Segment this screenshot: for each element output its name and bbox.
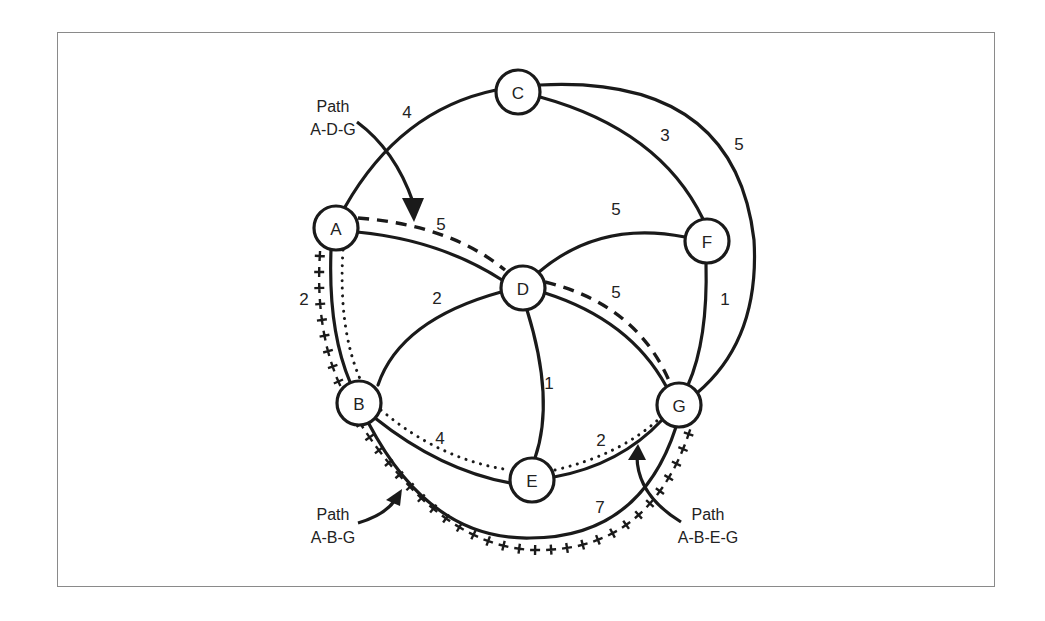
weight-F-G: 1 bbox=[720, 290, 729, 309]
annotation-a-d-g-title: Path bbox=[317, 98, 350, 115]
weight-A-B: 2 bbox=[299, 290, 308, 309]
annotation-a-b-g-path: A-B-G bbox=[311, 529, 355, 546]
node-G: G bbox=[657, 383, 701, 427]
weight-C-F: 3 bbox=[660, 126, 669, 145]
node-label-G: G bbox=[672, 397, 685, 416]
node-label-B: B bbox=[353, 395, 364, 414]
weight-A-D: 5 bbox=[436, 215, 445, 234]
annotation-a-b-e-g-path: A-B-E-G bbox=[678, 529, 738, 546]
annotation-a-b-g-title: Path bbox=[317, 506, 350, 523]
edge-E-G bbox=[554, 420, 662, 477]
arrow-a-b-g bbox=[358, 500, 395, 523]
weight-B-E: 4 bbox=[435, 429, 444, 448]
edge-A-D bbox=[357, 232, 502, 280]
weight-B-G: 7 bbox=[595, 498, 604, 517]
annotation-a-b-e-g-title: Path bbox=[692, 506, 725, 523]
arrowhead-a-d-g bbox=[402, 198, 424, 222]
edge-A-C bbox=[345, 90, 496, 207]
edge-C-F bbox=[540, 97, 703, 219]
weight-E-G: 2 bbox=[596, 431, 605, 450]
node-label-C: C bbox=[512, 84, 524, 103]
node-label-D: D bbox=[517, 280, 529, 299]
weight-D-B: 2 bbox=[432, 289, 441, 308]
node-F: F bbox=[685, 219, 729, 263]
node-B: B bbox=[337, 381, 381, 425]
node-D: D bbox=[501, 266, 545, 310]
edge-D-E bbox=[527, 310, 543, 458]
weight-D-F: 5 bbox=[611, 200, 620, 219]
node-label-E: E bbox=[526, 472, 537, 491]
node-label-F: F bbox=[702, 233, 712, 252]
weight-D-G: 5 bbox=[611, 283, 620, 302]
node-A: A bbox=[314, 206, 358, 250]
node-C: C bbox=[496, 70, 540, 114]
edge-F-G bbox=[688, 263, 706, 385]
weight-A-C: 4 bbox=[402, 103, 411, 122]
node-label-A: A bbox=[330, 220, 342, 239]
node-E: E bbox=[510, 458, 554, 502]
edge-D-F bbox=[539, 233, 685, 272]
annotation-a-d-g-path: A-D-G bbox=[310, 121, 355, 138]
network-graph: A B C D E F G 4 5 2 3 5 bbox=[0, 0, 1045, 621]
edge-A-B bbox=[331, 250, 350, 382]
weight-C-G: 5 bbox=[734, 135, 743, 154]
weight-D-E: 1 bbox=[544, 374, 553, 393]
